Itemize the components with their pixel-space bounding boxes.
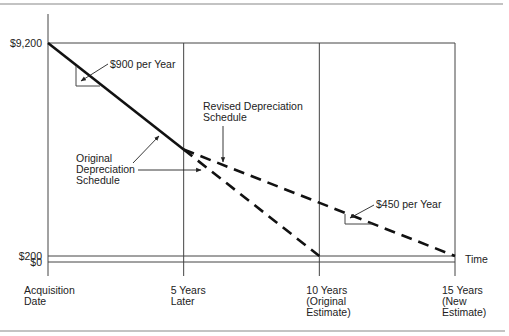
x-axis-label: Time xyxy=(465,253,488,265)
revised-schedule-label-line: Schedule xyxy=(203,111,247,123)
x-tick-label-line: Estimate) xyxy=(442,306,486,318)
y-tick-label: $0 xyxy=(30,256,42,268)
x-tick-label-line: Later xyxy=(171,295,195,307)
x-tick-label: AcquisitionDate xyxy=(24,284,75,307)
x-tick-label: 15 Years(NewEstimate) xyxy=(442,284,486,318)
x-tick-label: 5 YearsLater xyxy=(171,284,206,307)
x-tick-label-line: Date xyxy=(24,295,46,307)
depreciation-chart: $900 per Year$450 per YearRevised Deprec… xyxy=(0,0,509,336)
revised-schedule-label: Revised DepreciationSchedule xyxy=(203,100,303,123)
original-schedule-dashed-line xyxy=(184,150,320,257)
annotations: $900 per Year$450 per YearRevised Deprec… xyxy=(76,58,442,224)
x-tick-label-line: Estimate) xyxy=(306,306,350,318)
series-lines xyxy=(48,43,455,256)
arrow-rate-revised xyxy=(350,205,374,218)
original-schedule-label-line: Schedule xyxy=(76,174,120,186)
original-schedule-label: OriginalDepreciationSchedule xyxy=(76,152,135,186)
rate-original-label: $900 per Year xyxy=(110,58,176,70)
rate-revised-label: $450 per Year xyxy=(376,198,442,210)
x-tick-label: 10 Years(OriginalEstimate) xyxy=(306,284,350,318)
y-tick-label: $9,200 xyxy=(10,37,42,49)
arrow-original-solid xyxy=(133,136,159,163)
